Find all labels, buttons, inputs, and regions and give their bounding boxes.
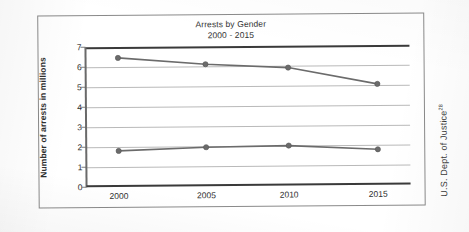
series-line	[119, 145, 378, 151]
data-point-marker	[116, 148, 121, 153]
x-axis-tick-labels: 2000200520102015	[87, 189, 411, 206]
data-point-marker	[204, 145, 209, 150]
series-layer	[85, 45, 410, 188]
data-point-marker	[375, 147, 380, 152]
series-line	[118, 56, 377, 86]
data-point-marker	[286, 65, 291, 70]
x-axis-tick-label: 2005	[197, 190, 216, 200]
data-point-marker	[203, 62, 208, 67]
source-credit-text: U.S. Dept. of Justice	[438, 110, 449, 196]
figure-root: Arrests by Gender 2000 - 2015 Number of …	[0, 0, 469, 232]
data-point-marker	[286, 143, 291, 148]
x-axis-tick-label: 2000	[110, 191, 129, 201]
source-credit: U.S. Dept. of Justice28	[437, 104, 449, 197]
data-point-marker	[115, 55, 120, 60]
y-axis-title: Number of arrests in millions	[38, 57, 49, 178]
x-axis-tick-label: 2010	[280, 190, 299, 200]
source-credit-superscript: 28	[437, 104, 443, 111]
data-point-marker	[375, 81, 380, 86]
plot-area	[85, 45, 410, 188]
x-axis-tick-label: 2015	[369, 189, 388, 199]
